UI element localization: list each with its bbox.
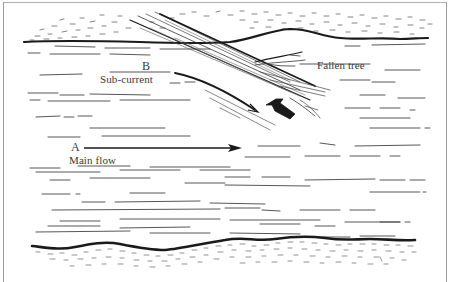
label-fallen-tree: Fallen tree — [317, 59, 365, 71]
top-bank-line — [24, 29, 428, 43]
label-point-a: A — [71, 140, 80, 155]
label-main-flow: Main flow — [69, 154, 116, 166]
label-sub-current: Sub-current — [100, 73, 153, 85]
bottom-bank-stipple — [36, 242, 416, 267]
sub-current-line — [175, 73, 255, 110]
water-flow-lines — [28, 44, 430, 237]
top-bank-stipple — [30, 11, 432, 40]
eddy-arrow — [266, 99, 295, 119]
bottom-bank-line — [32, 237, 415, 250]
label-point-b: B — [142, 59, 150, 74]
